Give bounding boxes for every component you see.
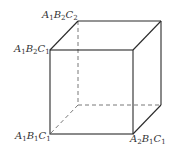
- cube-diagram: A1B2C2 A1B2C1 A1B1C1 A2B1C1: [0, 0, 172, 152]
- label-back-top-left: A1B2C2: [42, 10, 78, 23]
- edge-bottom-right-diagonal: [133, 105, 161, 134]
- edge-top-right-diagonal: [133, 21, 161, 50]
- label-front-bottom-right: A2B1C1: [130, 134, 166, 147]
- label-front-bottom-left: A1B1C1: [15, 131, 51, 144]
- edge-top-left-diagonal: [50, 21, 78, 50]
- hidden-edge-diagonal: [50, 105, 78, 134]
- label-front-top-left: A1B2C1: [14, 44, 50, 57]
